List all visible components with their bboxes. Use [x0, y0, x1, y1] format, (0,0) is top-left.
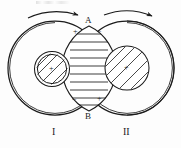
core-right-polarity: + — [124, 64, 129, 72]
figure-root: A B I II + − − + + + — [0, 0, 181, 148]
coil-label-two: II — [123, 127, 130, 137]
clockwise-current-arrow-right-icon — [104, 11, 152, 16]
polarity-bottom-left: − — [72, 96, 77, 104]
polarity-top-right: − — [97, 28, 102, 36]
clockwise-current-arrow-left-icon — [28, 12, 78, 18]
node-label-b: B — [85, 112, 91, 121]
node-label-a: A — [85, 16, 92, 25]
core-left-polarity: + — [49, 65, 54, 73]
coil-label-one: I — [52, 127, 55, 137]
polarity-bottom-right: + — [97, 95, 102, 103]
polarity-top-left: + — [73, 28, 78, 36]
